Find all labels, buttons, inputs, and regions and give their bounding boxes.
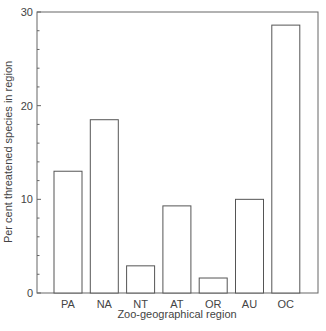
- y-tick-label: 20: [21, 100, 33, 112]
- bar-chart: 0102030 PANANTATORAUOC Zoo-geographical …: [0, 0, 326, 331]
- y-axis-label: Per cent threatened species in region: [2, 61, 14, 243]
- x-axis-label: Zoo-geographical region: [117, 308, 236, 320]
- x-tick-label: AU: [242, 298, 257, 310]
- y-tick-label: 0: [27, 287, 33, 299]
- bar-au: [236, 199, 264, 293]
- bar-pa: [54, 171, 82, 293]
- x-tick-label: OC: [278, 298, 295, 310]
- y-tick-label: 10: [21, 193, 33, 205]
- y-axis-ticks: 0102030: [21, 6, 41, 299]
- bar-or: [199, 278, 227, 293]
- bars: [54, 25, 300, 293]
- x-tick-label: NA: [97, 298, 113, 310]
- y-tick-label: 30: [21, 6, 33, 18]
- bar-nt: [127, 266, 155, 293]
- bar-oc: [272, 25, 300, 293]
- bar-at: [163, 206, 191, 293]
- bar-na: [90, 120, 118, 293]
- x-tick-label: PA: [61, 298, 76, 310]
